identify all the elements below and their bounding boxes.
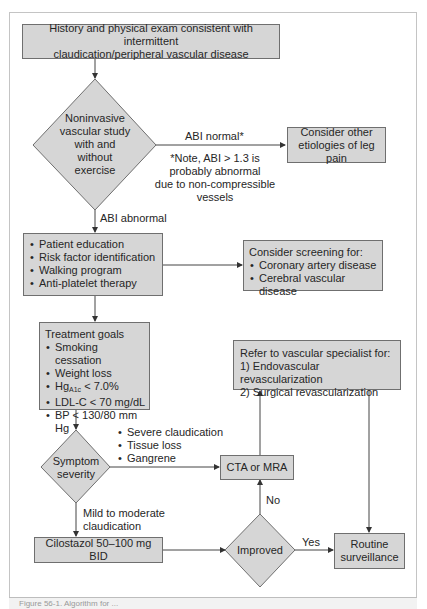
figure-caption: Figure 56-1. Algorithm for ...: [19, 599, 118, 608]
abi-note: *Note, ABI > 1.3 is probably abnormal du…: [135, 152, 295, 204]
improved-text: Improved: [225, 544, 295, 557]
cilostazol-label: Cilostazol 50–100 mg BID: [35, 537, 162, 563]
history-line-2: claudication/peripheral vascular disease: [53, 48, 248, 61]
severe-item: Tissue loss: [117, 439, 223, 452]
refer-specialist-box: Refer to vascular specialist for: 1) End…: [233, 340, 401, 390]
treatment-goal-item: Smoking cessation: [45, 341, 146, 367]
other-etiologies-box: Consider other etiologies of leg pain: [287, 127, 386, 163]
no-label: No: [266, 494, 280, 507]
treatment-goals-box: Treatment goals Smoking cessation Weight…: [39, 322, 150, 410]
hba1c-prefix: Hg: [55, 380, 69, 392]
abi-note-line: probably abnormal: [135, 165, 295, 178]
screening-item: Coronary artery disease: [249, 259, 378, 272]
management-item: Patient education: [29, 238, 158, 251]
routine-line: surveillance: [340, 551, 398, 564]
treatment-goal-item-hba1c: HgA1c < 7.0%: [45, 380, 146, 396]
mild-line: claudication: [83, 520, 165, 533]
symptom-line: Symptom: [41, 455, 111, 468]
noninvasive-line: without: [45, 151, 145, 164]
other-etiologies-line: etiologies of leg pain: [288, 139, 385, 165]
figure-caption-bar: Figure 56-1. Algorithm for ...: [9, 597, 417, 609]
abi-note-line: *Note, ABI > 1.3 is: [135, 152, 295, 165]
screening-box: Consider screening for: Coronary artery …: [243, 240, 383, 291]
symptom-severity-text: Symptom severity: [41, 455, 111, 481]
routine-line: Routine: [351, 538, 389, 551]
symptom-line: severity: [41, 468, 111, 481]
yes-label: Yes: [302, 536, 320, 549]
noninvasive-line: exercise: [45, 164, 145, 177]
mild-line: Mild to moderate: [83, 507, 165, 520]
mild-label: Mild to moderate claudication: [83, 507, 165, 533]
noninvasive-line: Noninvasive: [45, 112, 145, 125]
treatment-goal-item: LDL-C < 70 mg/dL: [45, 396, 146, 409]
management-item: Walking program: [29, 264, 158, 277]
history-exam-box: History and physical exam consistent wit…: [22, 24, 280, 59]
noninvasive-line: vascular study: [45, 125, 145, 138]
refer-title: Refer to vascular specialist for:: [240, 347, 396, 360]
abi-note-line: due to non-compressible vessels: [135, 178, 295, 204]
refer-item: 1) Endovascular revascularization: [240, 360, 396, 386]
treatment-goal-item: Weight loss: [45, 367, 146, 380]
noninvasive-study-text: Noninvasive vascular study with and with…: [45, 112, 145, 177]
severe-item: Severe claudication: [117, 426, 223, 439]
management-item: Risk factor identification: [29, 251, 158, 264]
treatment-goals-title: Treatment goals: [45, 328, 146, 341]
abi-normal-label: ABI normal*: [185, 130, 244, 143]
severe-item: Gangrene: [117, 452, 223, 465]
management-item: Anti-platelet therapy: [29, 277, 158, 290]
initial-management-box: Patient education Risk factor identifica…: [23, 233, 163, 296]
noninvasive-line: with and: [45, 138, 145, 151]
screening-title: Consider screening for:: [249, 246, 378, 259]
abi-abnormal-label: ABI abnormal: [100, 212, 167, 225]
refer-item: 2) Surgical revascularization: [240, 386, 396, 399]
history-line-1: History and physical exam consistent wit…: [23, 22, 279, 48]
cta-mra-label: CTA or MRA: [227, 461, 288, 474]
routine-surveillance-box: Routine surveillance: [334, 533, 405, 569]
hba1c-subscript: A1c: [69, 386, 81, 393]
hba1c-suffix: < 7.0%: [81, 380, 119, 392]
severe-symptoms-list: Severe claudication Tissue loss Gangrene: [117, 426, 223, 465]
other-etiologies-line: Consider other: [300, 126, 372, 139]
screening-item: Cerebral vascular disease: [249, 272, 378, 298]
cilostazol-box: Cilostazol 50–100 mg BID: [34, 537, 163, 563]
cta-mra-box: CTA or MRA: [220, 455, 294, 480]
